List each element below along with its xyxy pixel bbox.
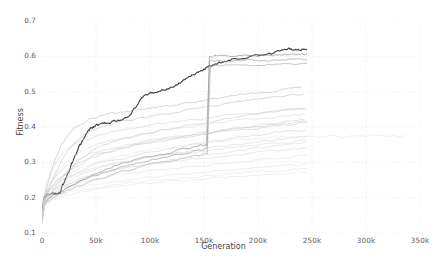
y-axis-label: Fitness (17, 92, 25, 152)
x-axis-label: Generation (0, 243, 447, 251)
x-axis-ticks: 050k100k150k200k250k300k350k (0, 0, 447, 261)
fitness-generation-chart: 0.10.20.30.40.50.60.7 050k100k150k200k25… (0, 0, 447, 261)
